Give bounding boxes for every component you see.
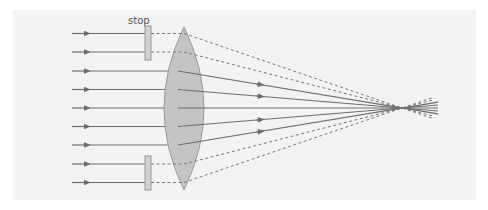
rays [72,34,178,183]
blocked-ray-refracted [184,100,432,164]
blocked-ray-refracted [184,52,432,116]
stop-label: stop [128,15,150,26]
lens-diagram: stop [0,0,488,210]
aperture-stop [145,156,151,190]
blocked-ray-refracted [184,98,432,183]
refracted-ray-arrow [256,84,262,85]
refracted-ray-arrow [256,131,262,132]
blocked-ray-refracted [184,34,432,119]
aperture-stop [145,26,151,60]
